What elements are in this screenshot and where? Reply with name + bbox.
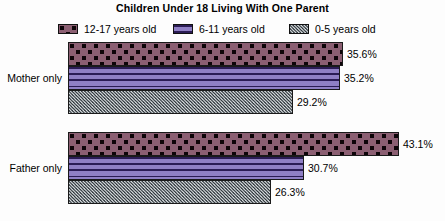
legend-swatch-12-17-years-old — [58, 24, 78, 34]
bar-mother-only-12-17-years-old: 35.6% — [68, 42, 343, 66]
bar-father-only-6-11-years-old: 30.7% — [68, 156, 304, 180]
legend-item-12-17-years-old: 12-17 years old — [58, 22, 156, 36]
legend-label-12-17-years-old: 12-17 years old — [84, 23, 156, 35]
bar-value-mother-only-12-17-years-old: 35.6% — [347, 48, 377, 60]
bar-mother-only-6-11-years-old: 35.2% — [68, 66, 340, 90]
legend-item-6-11-years-old: 6-11 years old — [173, 22, 265, 36]
bar-value-mother-only-0-5-years-old: 29.2% — [297, 96, 327, 108]
bar-value-father-only-6-11-years-old: 30.7% — [308, 162, 338, 174]
bar-value-mother-only-6-11-years-old: 35.2% — [344, 72, 374, 84]
bar-mother-only-0-5-years-old: 29.2% — [68, 90, 293, 114]
chart-title: Children Under 18 Living With One Parent — [0, 2, 445, 14]
legend-swatch-0-5-years-old — [289, 24, 309, 34]
chart-legend: 12-17 years old 6-11 years old 0-5 years… — [58, 22, 438, 36]
category-label-mother-only: Mother only — [7, 72, 68, 84]
legend-label-6-11-years-old: 6-11 years old — [199, 23, 265, 35]
legend-swatch-6-11-years-old — [173, 24, 193, 34]
category-label-father-only: Father only — [9, 162, 68, 174]
bar-father-only-12-17-years-old: 43.1% — [68, 132, 399, 156]
legend-label-0-5-years-old: 0-5 years old — [315, 23, 376, 35]
bar-value-father-only-12-17-years-old: 43.1% — [403, 138, 433, 150]
legend-item-0-5-years-old: 0-5 years old — [289, 22, 376, 36]
bar-value-father-only-0-5-years-old: 26.3% — [275, 186, 305, 198]
bar-chart: Children Under 18 Living With One Parent… — [0, 0, 445, 221]
bar-father-only-0-5-years-old: 26.3% — [68, 180, 271, 204]
plot-area: Mother only 35.6% 35.2% 29.2% Father onl… — [0, 38, 445, 221]
